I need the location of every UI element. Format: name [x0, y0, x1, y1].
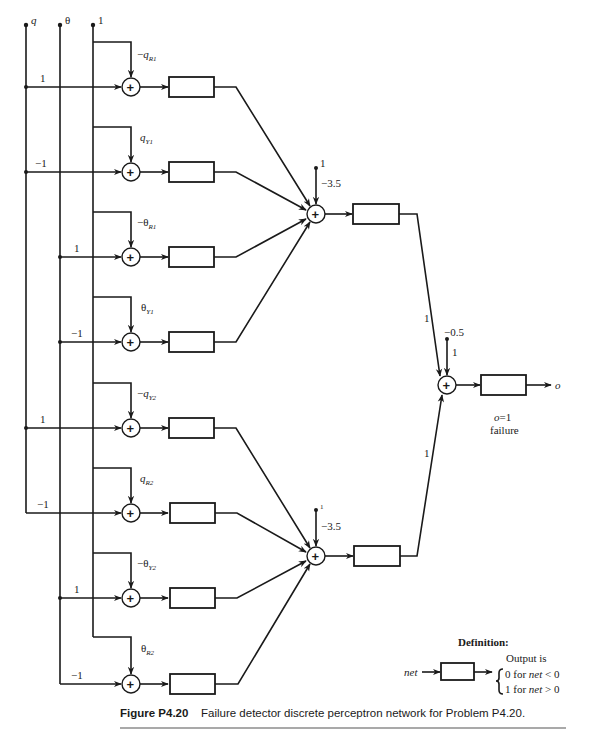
output-label: o — [555, 379, 561, 391]
plus-icon: + — [312, 207, 320, 222]
input-weight: 1 — [40, 72, 46, 84]
bias-weight-label: −qR1 — [137, 48, 157, 63]
theta-input-label: θ — [65, 14, 70, 26]
figure-caption-text: Failure detector discrete perceptron net… — [201, 707, 525, 719]
plus-icon: + — [127, 335, 135, 350]
hidden-bias-weight: −3.5 — [321, 520, 341, 532]
plus-icon: + — [127, 677, 135, 692]
definition-case-0: 0 for net < 0 — [505, 668, 560, 680]
bias-weight-label: qR2 — [140, 472, 154, 487]
bias-weight-label: θY1 — [141, 301, 154, 316]
input-weight: −1 — [71, 669, 83, 681]
output-note-failure: failure — [490, 424, 519, 436]
activation-block — [169, 77, 214, 97]
output-bias-weight: 1 — [452, 346, 458, 358]
figure-caption: Figure P4.20 Failure detector discrete p… — [120, 707, 566, 728]
input-weight: 1 — [40, 413, 46, 425]
bias-weight-label: qY1 — [140, 131, 153, 146]
first-layer-neuron-7: 1 −θY2 + — [58, 553, 306, 608]
weight-from-hidden-1: 1 — [424, 312, 430, 324]
first-layer-neuron-5: 1 −qY2 + — [24, 383, 310, 548]
definition-case-1: 1 for net > 0 — [505, 683, 560, 695]
first-layer-neuron-3: 1 −θR1 + — [58, 212, 306, 267]
definition-net-label: net — [404, 666, 418, 678]
hidden-neuron-2: 1 −3.5 + — [307, 395, 442, 566]
input-weight: 1 — [74, 583, 80, 595]
bias-weight-label: −θY2 — [137, 557, 156, 572]
input-weight: −1 — [37, 498, 49, 510]
input-weight: −1 — [71, 327, 83, 339]
bias-weight-label: −qY2 — [137, 387, 157, 402]
q-input-label: q — [31, 14, 37, 26]
hidden-bias-input: 1 — [320, 503, 324, 511]
perceptron-network-diagram: q θ 1 1 −qR1 + −1 qY1 + — [0, 0, 592, 736]
one-input-label: 1 — [98, 14, 104, 26]
plus-icon: + — [127, 80, 135, 95]
brace-icon — [496, 669, 503, 694]
activation-block — [481, 375, 526, 395]
q-input-dot — [24, 23, 28, 27]
input-bus: q θ 1 — [24, 14, 104, 684]
bias-weight-label: −θR1 — [137, 216, 156, 231]
definition-legend: Definition: net Output is 0 for net < 0 … — [404, 636, 560, 695]
definition-activation-block — [441, 663, 474, 680]
activation-block — [169, 418, 214, 438]
definition-output-heading: Output is — [506, 652, 547, 664]
activation-block — [170, 588, 215, 608]
bias-weight-label: θR2 — [141, 642, 155, 657]
first-layer-neuron-1: 1 −qR1 + — [24, 42, 310, 206]
weight-from-hidden-2: 1 — [424, 447, 430, 459]
input-weight: −1 — [35, 157, 47, 169]
plus-icon: + — [443, 378, 451, 393]
output-neuron: 1 1 −0.5 1 + o o=1 failure — [424, 312, 561, 459]
hidden-bias-input: 1 — [320, 157, 326, 169]
activation-block — [353, 204, 399, 224]
output-bias-input: −0.5 — [444, 326, 464, 338]
plus-icon: + — [127, 165, 135, 180]
plus-icon: + — [127, 421, 135, 436]
figure-number: Figure P4.20 — [120, 707, 188, 719]
first-layer-neuron-6: −1 qR2 + — [26, 468, 306, 552]
hidden-bias-weight: −3.5 — [321, 177, 341, 189]
output-note-condition: o=1 — [494, 411, 511, 423]
first-layer-neuron-2: −1 qY1 + — [24, 127, 306, 210]
plus-icon: + — [127, 250, 135, 265]
activation-block — [354, 546, 400, 566]
activation-block — [169, 332, 214, 352]
theta-input-dot — [58, 23, 62, 27]
definition-title: Definition: — [458, 636, 509, 648]
activation-block — [170, 674, 215, 694]
hidden-neuron-1: 1 −3.5 + — [307, 157, 440, 376]
one-input-dot — [91, 23, 95, 27]
activation-block — [169, 162, 214, 182]
input-weight: 1 — [74, 242, 80, 254]
activation-block — [170, 503, 215, 523]
first-layer-neuron-4: −1 θY1 + — [58, 222, 310, 352]
plus-icon: + — [312, 549, 320, 564]
first-layer-neuron-8: −1 θR2 + — [60, 564, 310, 694]
plus-icon: + — [127, 506, 135, 521]
activation-block — [169, 247, 214, 267]
plus-icon: + — [127, 591, 135, 606]
